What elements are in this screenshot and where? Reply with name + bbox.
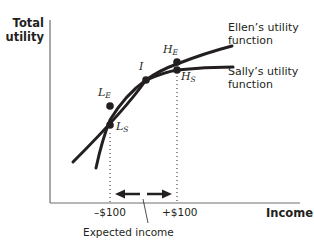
point-HE bbox=[173, 58, 181, 66]
point-LS bbox=[106, 121, 114, 129]
sally-label-line1: Sally’s utility bbox=[228, 65, 298, 78]
expected-income-label: Expected income bbox=[83, 226, 174, 238]
point-I bbox=[142, 76, 150, 84]
point-HS bbox=[173, 66, 181, 74]
label-LE-sub: E bbox=[105, 91, 110, 100]
point-LE bbox=[106, 102, 114, 110]
ellen-utility-curve bbox=[73, 46, 232, 162]
y-axis-label-line1: Total bbox=[4, 16, 44, 30]
y-axis-label: Total utility bbox=[4, 16, 44, 44]
tick-high: +$100 bbox=[162, 206, 198, 218]
label-HE-main: H bbox=[163, 43, 173, 56]
tick-low: –$100 bbox=[94, 206, 126, 218]
label-LS: LS bbox=[116, 120, 128, 134]
label-LE: LE bbox=[98, 86, 111, 100]
ellen-curve-label: Ellen’s utility function bbox=[228, 21, 299, 47]
label-I: I bbox=[139, 60, 143, 73]
label-HS: HS bbox=[181, 70, 196, 84]
left-arrow-icon bbox=[115, 190, 140, 199]
label-HE-sub: E bbox=[173, 48, 178, 57]
x-axis-label: Income bbox=[266, 206, 313, 220]
sally-label-line2: function bbox=[228, 78, 298, 91]
y-axis-label-line2: utility bbox=[4, 30, 44, 44]
label-I-main: I bbox=[139, 60, 143, 73]
right-arrow-icon bbox=[147, 190, 172, 199]
label-LS-sub: S bbox=[123, 125, 128, 134]
ellen-label-line2: function bbox=[228, 34, 299, 47]
sally-curve-label: Sally’s utility function bbox=[228, 65, 298, 91]
ellen-label-line1: Ellen’s utility bbox=[228, 21, 299, 34]
label-HS-main: H bbox=[181, 70, 191, 83]
label-HE: HE bbox=[163, 43, 178, 57]
label-HS-sub: S bbox=[191, 75, 196, 84]
